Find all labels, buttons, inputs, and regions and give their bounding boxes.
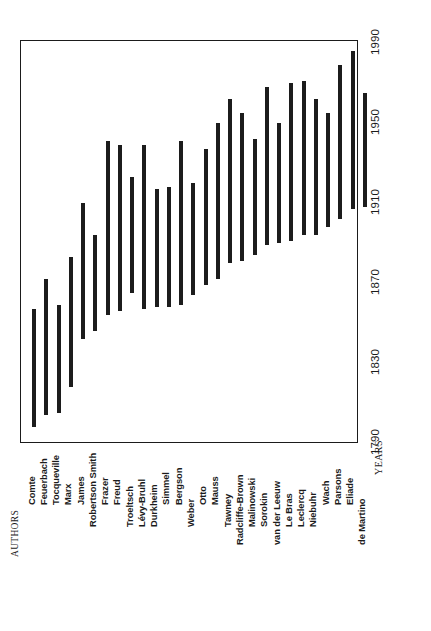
year-tick-label: 1950: [368, 105, 382, 139]
bars-layer: [21, 41, 357, 442]
author-axis-label: Lévy-Bruhl: [137, 479, 146, 527]
lifespan-bar: [314, 99, 318, 235]
lifespan-bar: [204, 149, 208, 285]
author-axis-label: Le Bras: [284, 493, 293, 527]
lifespan-bar: [228, 99, 232, 263]
lifespan-bar: [167, 187, 171, 307]
author-axis-label: Leclercq: [296, 489, 305, 527]
lifespan-bar: [155, 189, 159, 307]
author-axis-label: Tocqueville: [51, 455, 60, 505]
author-axis-label: Sorokin: [259, 493, 268, 527]
plot-area: [20, 40, 358, 443]
author-axis-label: Wach: [321, 481, 330, 505]
lifespan-bar: [93, 235, 97, 331]
lifespan-bar: [142, 145, 146, 309]
author-axis-label: Weber: [186, 499, 195, 527]
lifespan-bar: [81, 203, 85, 339]
lifespan-bar: [130, 177, 134, 293]
year-tick-label: 1910: [368, 185, 382, 219]
author-axis-label: Troeltsch: [125, 486, 134, 527]
author-axis-label: van der Leeuw: [272, 481, 281, 545]
author-axis-label: Otto: [198, 486, 207, 505]
author-axis-label: de Martino: [357, 499, 366, 545]
author-axis-label: Parsons: [333, 469, 342, 505]
lifespan-bar: [253, 139, 257, 255]
author-axis-label: Niebuhr: [308, 492, 317, 527]
lifespan-chart-figure: 199019501910187018301790 YEARS ComteFeue…: [0, 0, 431, 631]
author-axis-label: Marx: [63, 484, 72, 506]
lifespan-bar: [289, 83, 293, 241]
author-axis-label: Malinowski: [247, 478, 256, 527]
lifespan-bar: [351, 51, 355, 209]
author-axis-label: Simmel: [161, 472, 170, 505]
author-axis-label: Mauss: [210, 476, 219, 505]
author-axis-label: James: [76, 476, 85, 505]
author-axis-label: Comte: [27, 476, 36, 505]
lifespan-bar: [216, 123, 220, 279]
lifespan-bar: [32, 309, 36, 427]
author-axis-label: Tawney: [223, 494, 232, 527]
lifespan-bar: [106, 141, 110, 315]
lifespan-bar: [338, 65, 342, 219]
year-tick-label: 1870: [368, 265, 382, 299]
author-axis-label: Eliade: [345, 478, 354, 505]
year-tick-label: 1830: [368, 345, 382, 379]
lifespan-bar: [57, 305, 61, 413]
lifespan-bar: [277, 123, 281, 243]
lifespan-bar: [118, 145, 122, 311]
author-axis-label: Bergson: [174, 468, 183, 505]
author-axis-label: Durkheim: [149, 485, 158, 527]
author-axis-label: Freud: [112, 479, 121, 505]
author-axis-label: Robertson Smith: [88, 453, 97, 527]
lifespan-bar: [240, 113, 244, 261]
author-axis: ComteFeuerbachTocquevilleMarxJamesRobert…: [0, 443, 380, 623]
author-axis-label: Frazer: [100, 477, 109, 505]
lifespan-bar: [179, 141, 183, 305]
author-axis-label: Feuerbach: [39, 458, 48, 505]
lifespan-bar: [326, 113, 330, 227]
year-axis: 199019501910187018301790: [358, 40, 392, 443]
author-axis-title: AUTHORS: [10, 510, 20, 557]
lifespan-bar: [44, 279, 48, 415]
lifespan-bar: [69, 257, 73, 387]
lifespan-bar: [302, 81, 306, 235]
author-axis-label: Radcliffe-Brown: [235, 475, 244, 545]
year-tick-label: 1990: [368, 25, 382, 59]
lifespan-bar: [265, 87, 269, 245]
lifespan-bar: [191, 183, 195, 295]
